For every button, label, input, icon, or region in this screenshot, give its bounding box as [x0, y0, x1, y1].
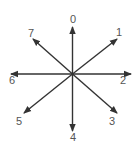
- label-direction-5: 5: [16, 115, 22, 127]
- label-direction-2: 2: [120, 74, 126, 86]
- arrow-direction-3: [73, 74, 118, 113]
- label-direction-7: 7: [28, 27, 34, 39]
- label-direction-0: 0: [70, 13, 76, 25]
- arrow-direction-7: [33, 39, 73, 74]
- label-direction-1: 1: [116, 26, 122, 38]
- arrow-direction-1: [73, 39, 118, 74]
- label-direction-3: 3: [109, 115, 115, 127]
- center-point: [71, 73, 73, 75]
- label-direction-6: 6: [9, 74, 15, 86]
- label-direction-4: 4: [70, 131, 76, 143]
- compass-direction-diagram: 01234567: [0, 0, 138, 146]
- arrow-direction-5: [24, 74, 73, 113]
